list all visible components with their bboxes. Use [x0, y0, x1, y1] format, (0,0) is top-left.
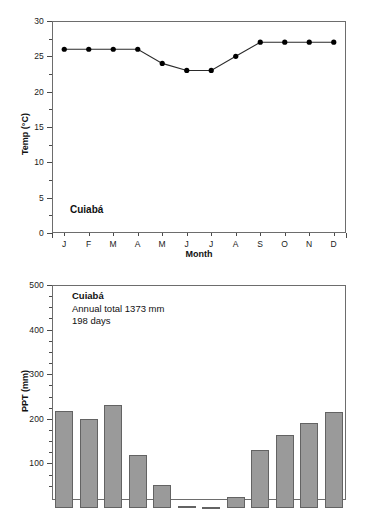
- data-point-marker: [184, 68, 189, 73]
- x-tick-label: A: [135, 239, 141, 249]
- y-tick-minor: [49, 296, 52, 297]
- precipitation-y-axis-title: PPT (mm): [20, 370, 30, 412]
- y-tick-major: [47, 162, 52, 163]
- y-tick-major: [47, 127, 52, 128]
- data-point-marker: [209, 68, 214, 73]
- y-tick-label: 10: [20, 157, 44, 167]
- bar: [276, 435, 294, 508]
- annotation-site-name: Cuiabá: [72, 290, 164, 303]
- y-tick-minor: [49, 475, 52, 476]
- precipitation-chart-panel: 100200300400500 PPT (mm) Cuiabá Annual t…: [0, 260, 366, 489]
- y-tick-major: [47, 56, 52, 57]
- precipitation-annotation: Cuiabá Annual total 1373 mm 198 days: [72, 290, 164, 328]
- x-tick-label: A: [233, 239, 239, 249]
- y-tick-label: 400: [18, 325, 44, 335]
- x-tick-label: F: [86, 239, 91, 249]
- temperature-line-series: [0, 0, 366, 260]
- data-point-marker: [233, 54, 238, 59]
- x-tick-label: M: [159, 239, 166, 249]
- bar: [129, 455, 147, 508]
- y-tick-minor: [49, 145, 52, 146]
- y-tick-label: 25: [20, 51, 44, 61]
- x-tick-minor: [260, 233, 261, 236]
- data-point-marker: [62, 47, 67, 52]
- x-tick-major: [52, 233, 53, 238]
- bar: [227, 497, 245, 508]
- temperature-chart-panel: 051015202530 JFMAMJJASOND Temp (°C) Mont…: [0, 0, 366, 260]
- y-tick-minor: [49, 397, 52, 398]
- y-tick-minor: [49, 408, 52, 409]
- temperature-x-axis-title: Month: [186, 249, 213, 259]
- y-tick-minor: [49, 452, 52, 453]
- annotation-rain-days: 198 days: [72, 315, 164, 328]
- bar: [325, 412, 343, 508]
- y-tick-minor: [49, 180, 52, 181]
- y-tick-minor: [49, 39, 52, 40]
- y-tick-minor: [49, 486, 52, 487]
- y-tick-minor: [49, 430, 52, 431]
- x-tick-minor: [309, 233, 310, 236]
- y-tick-minor: [49, 215, 52, 216]
- bar: [202, 507, 220, 509]
- bar: [178, 506, 196, 508]
- data-point-marker: [160, 61, 165, 66]
- x-tick-minor: [64, 233, 65, 236]
- y-tick-label: 200: [18, 414, 44, 424]
- data-point-marker: [282, 40, 287, 45]
- y-tick-major: [47, 419, 52, 420]
- x-tick-label: D: [331, 239, 337, 249]
- y-tick-minor: [49, 74, 52, 75]
- x-tick-minor: [334, 233, 335, 236]
- y-tick-minor: [49, 307, 52, 308]
- x-tick-minor: [211, 233, 212, 236]
- x-tick-minor: [285, 233, 286, 236]
- x-tick-major: [346, 233, 347, 238]
- y-tick-label: 500: [18, 280, 44, 290]
- bar: [153, 485, 171, 508]
- x-tick-minor: [236, 233, 237, 236]
- y-tick-minor: [49, 385, 52, 386]
- bar: [251, 450, 269, 508]
- y-tick-major: [47, 285, 52, 286]
- temperature-y-axis-title: Temp (°C): [20, 113, 30, 155]
- y-tick-major: [47, 330, 52, 331]
- y-tick-major: [47, 463, 52, 464]
- x-tick-minor: [89, 233, 90, 236]
- x-tick-minor: [162, 233, 163, 236]
- bar: [55, 411, 73, 508]
- data-point-marker: [331, 40, 336, 45]
- x-tick-label: M: [110, 239, 117, 249]
- y-tick-minor: [49, 352, 52, 353]
- y-tick-major: [47, 198, 52, 199]
- y-tick-label: 0: [20, 228, 44, 238]
- x-tick-label: O: [281, 239, 288, 249]
- x-tick-minor: [138, 233, 139, 236]
- y-tick-label: 5: [20, 193, 44, 203]
- data-point-marker: [86, 47, 91, 52]
- x-tick-label: J: [209, 239, 213, 249]
- x-tick-minor: [113, 233, 114, 236]
- x-tick-label: J: [62, 239, 66, 249]
- bar: [104, 405, 122, 508]
- y-tick-major: [47, 374, 52, 375]
- annotation-annual-total: Annual total 1373 mm: [72, 303, 164, 316]
- y-tick-label: 30: [20, 16, 44, 26]
- temperature-line: [64, 42, 334, 70]
- x-tick-label: S: [257, 239, 263, 249]
- x-tick-label: N: [306, 239, 312, 249]
- data-point-marker: [135, 47, 140, 52]
- y-tick-minor: [49, 341, 52, 342]
- data-point-marker: [111, 47, 116, 52]
- y-tick-minor: [49, 109, 52, 110]
- y-tick-minor: [49, 441, 52, 442]
- bar: [80, 419, 98, 508]
- temperature-site-label: Cuiabá: [70, 204, 103, 215]
- data-point-marker: [258, 40, 263, 45]
- x-tick-label: J: [185, 239, 189, 249]
- y-tick-label: 20: [20, 87, 44, 97]
- data-point-marker: [307, 40, 312, 45]
- y-tick-minor: [49, 318, 52, 319]
- y-tick-major: [47, 21, 52, 22]
- y-tick-major: [47, 92, 52, 93]
- y-tick-minor: [49, 363, 52, 364]
